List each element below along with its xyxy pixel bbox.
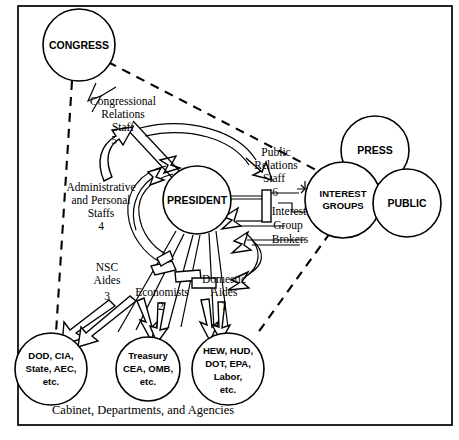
public-relations-number: 6 [272, 186, 278, 198]
node-congress[interactable]: CONGRESS [43, 9, 115, 81]
interest-groups-label-line2: GROUPS [322, 200, 363, 211]
figure-caption: Cabinet, Departments, and Agencies [52, 403, 234, 417]
domestic-aides-line2: Aides [211, 286, 238, 298]
public-relations-line3: Staff [263, 172, 285, 184]
nsc-aides-line1: NSC [96, 261, 119, 273]
president-inner-arc [133, 168, 164, 230]
domestic-aides-line1: Domestic [202, 273, 246, 285]
defense-line2: State, AEC, [26, 363, 77, 374]
congressional-relations-line1: Congressional [90, 95, 156, 108]
node-domestic-agencies[interactable]: HEW, HUD, DOT, EPA, Labor, etc. [192, 333, 264, 405]
dashed-link-congress-defense [56, 81, 72, 333]
dashed-link-interest-groups-domestic [257, 233, 330, 334]
president-label: PRESIDENT [167, 194, 228, 206]
administrative-line3: Staffs [88, 207, 115, 219]
node-defense-agencies[interactable]: DOD, CIA, State, AEC, etc. [15, 333, 87, 405]
interest-group-brokers-line1: Interest [272, 205, 307, 217]
node-economic-agencies[interactable]: Treasury CEA, OMB, etc. [116, 337, 180, 401]
congressional-relations-line2: Relations [101, 108, 145, 120]
domestic-line4: etc. [220, 384, 236, 395]
congress-label: CONGRESS [49, 39, 109, 51]
public-relations-line1: Public [261, 146, 290, 158]
node-president[interactable]: PRESIDENT [163, 166, 231, 234]
administrative-line2: and Personal [71, 194, 130, 206]
nsc-aides-number: 3 [104, 290, 110, 302]
economic-line3: etc. [140, 376, 156, 387]
congressional-relations-number: 5 [111, 134, 117, 146]
nsc-aides-line2: Aides [94, 274, 121, 286]
presidential-staff-diagram: CONGRESS PRESIDENT PRESS INTEREST GROUPS… [0, 0, 459, 440]
economic-line1: Treasury [128, 350, 168, 361]
interest-group-brokers-line3: Brokers [272, 233, 309, 245]
node-public[interactable]: PUBLIC [373, 169, 441, 237]
defense-line3: etc. [43, 376, 59, 387]
public-relations-line2: Relations [254, 159, 298, 171]
administrative-line1: Administrative [67, 181, 136, 193]
label-nsc-aides: NSC Aides 3 [94, 261, 121, 302]
domestic-line2: DOT, EPA, [205, 358, 251, 369]
defense-line1: DOD, CIA, [28, 350, 73, 361]
public-label: PUBLIC [387, 197, 427, 209]
administrative-number: 4 [98, 220, 104, 232]
interest-groups-label-line1: INTEREST [320, 188, 367, 199]
domestic-aides-number: 1 [221, 300, 227, 312]
domestic-line3: Labor, [214, 371, 243, 382]
diagram-canvas: CONGRESS PRESIDENT PRESS INTEREST GROUPS… [0, 0, 459, 440]
label-administrative-personal-staffs: Administrative and Personal Staffs 4 [67, 181, 136, 232]
economists-line1: Economists [135, 286, 189, 298]
interest-group-brokers-line2: Group [273, 219, 303, 232]
pr-staff-hook [297, 181, 305, 193]
broker-token [262, 190, 271, 222]
domestic-line1: HEW, HUD, [203, 345, 253, 356]
node-interest-groups[interactable]: INTEREST GROUPS [305, 162, 381, 238]
press-label: PRESS [357, 144, 393, 156]
label-interest-group-brokers: Interest Group Brokers [272, 205, 309, 245]
congressional-relations-line3: Staff [112, 121, 134, 133]
economists-number: 2 [158, 300, 164, 312]
economic-line2: CEA, OMB, [123, 363, 173, 374]
